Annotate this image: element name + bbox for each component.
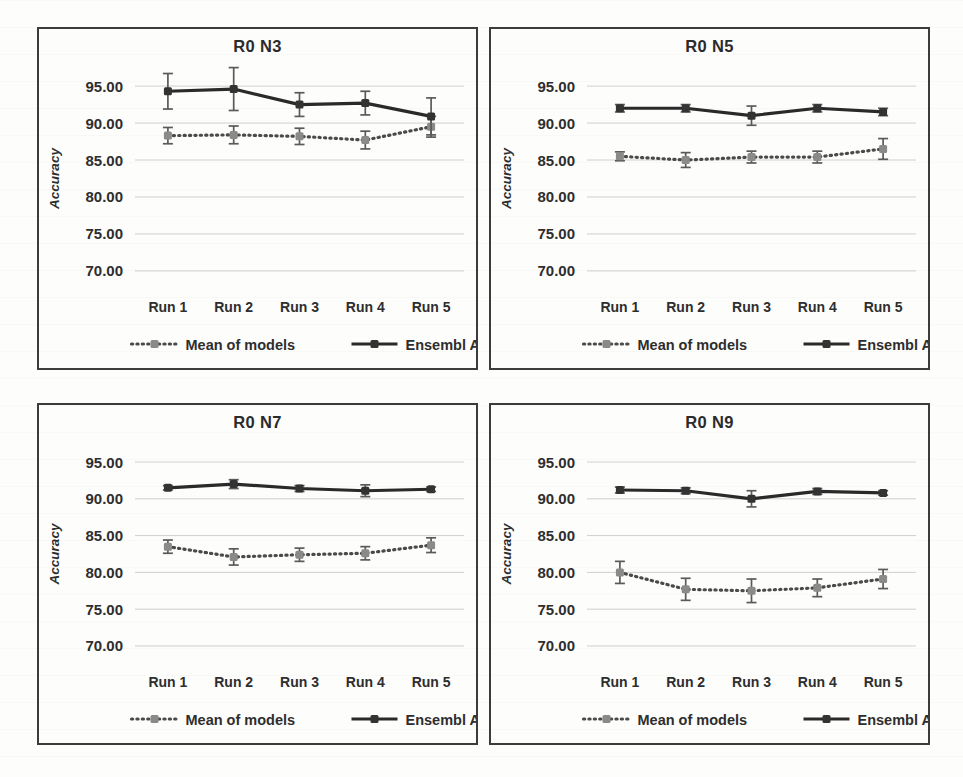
chart-title: R0 N5 [491,37,928,56]
chart-title: R0 N3 [39,37,476,56]
plot-area: 95.0090.0085.0080.0075.0070.00AccuracyRu… [39,439,476,743]
x-tick-label: Run 3 [280,674,319,690]
legend-mean-label: Mean of models [186,337,296,353]
ensemble-marker [230,480,238,488]
x-tick-label: Run 2 [214,674,253,690]
y-tick-label: 90.00 [85,115,123,132]
y-tick-label: 95.00 [537,454,575,471]
chart-svg-0: 95.0090.0085.0080.0075.0070.00AccuracyRu… [39,63,476,368]
plot-area: 95.0090.0085.0080.0075.0070.00AccuracyRu… [491,439,928,743]
mean-marker [682,156,690,164]
y-tick-label: 85.00 [85,527,123,544]
plot-area: 95.0090.0085.0080.0075.0070.00AccuracyRu… [491,63,928,368]
mean-marker [296,551,304,559]
mean-marker [748,587,756,595]
chart-panel-r0-n5: R0 N5 95.0090.0085.0080.0075.0070.00Accu… [489,27,930,370]
y-axis-title: Accuracy [47,147,62,210]
y-tick-label: 90.00 [537,490,575,507]
mean-marker [813,584,821,592]
legend-mean-marker [151,715,159,723]
legend-ensemble-label: Ensembl Acc [858,337,929,353]
y-tick-label: 95.00 [537,78,575,95]
ensemble-marker [616,486,624,494]
legend-ensemble-marker [371,340,379,348]
legend-item-ensemble: Ensembl Acc [804,712,929,728]
x-tick-label: Run 5 [412,299,451,315]
ensemble-marker [813,487,821,495]
x-tick-label: Run 2 [666,299,705,315]
mean-marker [813,153,821,161]
y-tick-label: 90.00 [85,490,123,507]
mean-marker [879,145,887,153]
y-tick-label: 75.00 [537,225,575,242]
y-tick-label: 80.00 [537,564,575,581]
x-tick-label: Run 1 [600,674,639,690]
x-tick-label: Run 1 [148,299,187,315]
legend-item-ensemble: Ensembl Acc [804,337,929,353]
mean-marker [361,549,369,557]
y-tick-label: 70.00 [85,262,123,279]
y-tick-label: 90.00 [537,115,575,132]
mean-marker [616,152,624,160]
ensemble-marker [164,87,172,95]
chart-svg-3: 95.0090.0085.0080.0075.0070.00AccuracyRu… [491,439,928,743]
chart-panel-r0-n3: R0 N3 95.0090.0085.0080.0075.0070.00Accu… [37,27,478,370]
legend-item-ensemble: Ensembl Acc [352,337,477,353]
legend-ensemble-label: Ensembl Acc [858,712,929,728]
ensemble-marker [361,487,369,495]
legend-ensemble-label: Ensembl Acc [406,337,477,353]
chart-panel-r0-n7: R0 N7 95.0090.0085.0080.0075.0070.00Accu… [37,403,478,745]
ensemble-marker [361,99,369,107]
mean-marker [164,132,172,140]
legend-mean-marker [603,340,611,348]
plot-area: 95.0090.0085.0080.0075.0070.00AccuracyRu… [39,63,476,368]
chart-title: R0 N9 [491,413,928,432]
ensemble-marker [879,489,887,497]
ensemble-marker [748,112,756,120]
mean-marker [230,553,238,561]
x-tick-label: Run 3 [280,299,319,315]
chart-svg-1: 95.0090.0085.0080.0075.0070.00AccuracyRu… [491,63,928,368]
mean-marker [230,131,238,139]
legend-mean-marker [151,340,159,348]
y-tick-label: 70.00 [537,637,575,654]
ensemble-marker [682,487,690,495]
x-tick-label: Run 4 [346,299,385,315]
figure-grid: R0 N3 95.0090.0085.0080.0075.0070.00Accu… [0,0,963,777]
x-tick-label: Run 5 [864,674,903,690]
y-tick-label: 85.00 [85,152,123,169]
ensemble-marker [296,485,304,493]
mean-marker [616,568,624,576]
y-tick-label: 80.00 [85,564,123,581]
y-tick-label: 70.00 [537,262,575,279]
y-tick-label: 95.00 [85,454,123,471]
mean-marker [682,585,690,593]
legend-mean-marker [603,715,611,723]
mean-marker [879,575,887,583]
y-tick-label: 75.00 [85,225,123,242]
ensemble-marker [164,484,172,492]
legend-mean-label: Mean of models [638,712,748,728]
chart-title: R0 N7 [39,413,476,432]
legend-ensemble-label: Ensembl Acc [406,712,477,728]
ensemble-marker [813,104,821,112]
chart-panel-r0-n9: R0 N9 95.0090.0085.0080.0075.0070.00Accu… [489,403,930,745]
x-tick-label: Run 1 [600,299,639,315]
x-tick-label: Run 2 [666,674,705,690]
legend-item-mean: Mean of models [132,712,296,728]
y-axis-title: Accuracy [47,522,62,585]
ensemble-marker [230,85,238,93]
legend-item-ensemble: Ensembl Acc [352,712,477,728]
x-tick-label: Run 5 [412,674,451,690]
legend-mean-label: Mean of models [186,712,296,728]
mean-marker [361,136,369,144]
mean-marker [296,132,304,140]
ensemble-marker [427,112,435,120]
x-tick-label: Run 3 [732,674,771,690]
y-tick-label: 85.00 [537,152,575,169]
legend-ensemble-marker [823,715,831,723]
y-tick-label: 85.00 [537,527,575,544]
legend-item-mean: Mean of models [584,712,748,728]
legend-item-mean: Mean of models [132,337,296,353]
legend-ensemble-marker [371,715,379,723]
